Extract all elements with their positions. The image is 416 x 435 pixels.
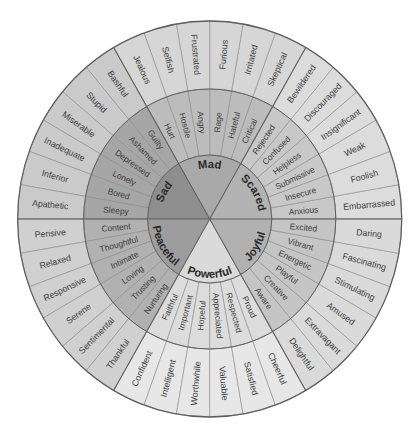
feelings-wheel: AnxiousEmbarrassedInsecureFoolishSubmiss… <box>0 0 416 435</box>
secondary-label: Rage <box>212 111 224 133</box>
core-label-text-mad: Mad <box>197 158 222 171</box>
wheel-group: AnxiousEmbarrassedInsecureFoolishSubmiss… <box>18 21 402 417</box>
core-label-mad: Mad <box>197 158 222 171</box>
secondary-label: Angry <box>196 111 208 135</box>
